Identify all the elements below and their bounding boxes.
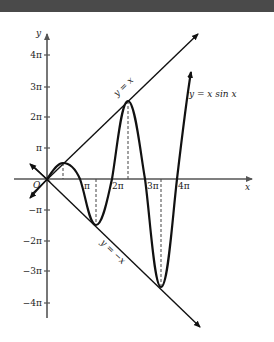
label-y-x-sin-x: y = x sin x [188, 89, 237, 99]
y-tick-label: −2π [23, 236, 42, 246]
x-axis-label: x [245, 182, 250, 192]
x-tick-label: 4π [178, 181, 190, 191]
x-tick-label: 2π [112, 181, 124, 191]
y-tick-label: 4π [30, 50, 42, 60]
y-tick-label: 3π [30, 82, 42, 92]
label-y-equals-neg-x: y = −x [98, 237, 128, 266]
y-axis-label: y [35, 28, 42, 38]
y-tick-label: π [36, 143, 42, 153]
x-tick-label: 3π [147, 181, 159, 191]
y-tick-label: −3π [23, 266, 42, 276]
label-y-equals-x: y = x [111, 75, 136, 99]
x-tick-label: π [84, 181, 90, 191]
y-tick-label: 2π [30, 112, 42, 122]
line-y-equals-x [32, 34, 198, 194]
y-tick-label: −4π [23, 298, 42, 308]
plot-canvas: O y x 4π 3π 2π π −π −2π −3π −4π π 2π 3π … [0, 0, 274, 342]
y-tick-label: −π [29, 205, 43, 215]
origin-label: O [33, 180, 41, 190]
